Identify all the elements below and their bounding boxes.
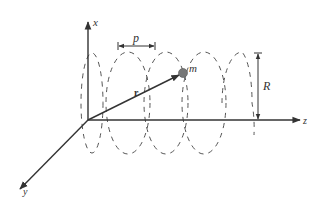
radius-dimension	[254, 53, 262, 119]
position-vector-label: r	[134, 87, 139, 98]
z-axis-label: z	[302, 115, 307, 126]
mass-particle	[179, 69, 188, 78]
helix-diagram: x z y p R m r	[0, 0, 320, 207]
y-axis	[20, 120, 88, 189]
pitch-label: p	[132, 31, 139, 45]
radius-label: R	[262, 79, 271, 93]
mass-label: m	[189, 62, 197, 74]
x-axis-label: x	[92, 16, 98, 28]
y-axis-label: y	[22, 186, 28, 197]
helix-path	[81, 52, 254, 154]
